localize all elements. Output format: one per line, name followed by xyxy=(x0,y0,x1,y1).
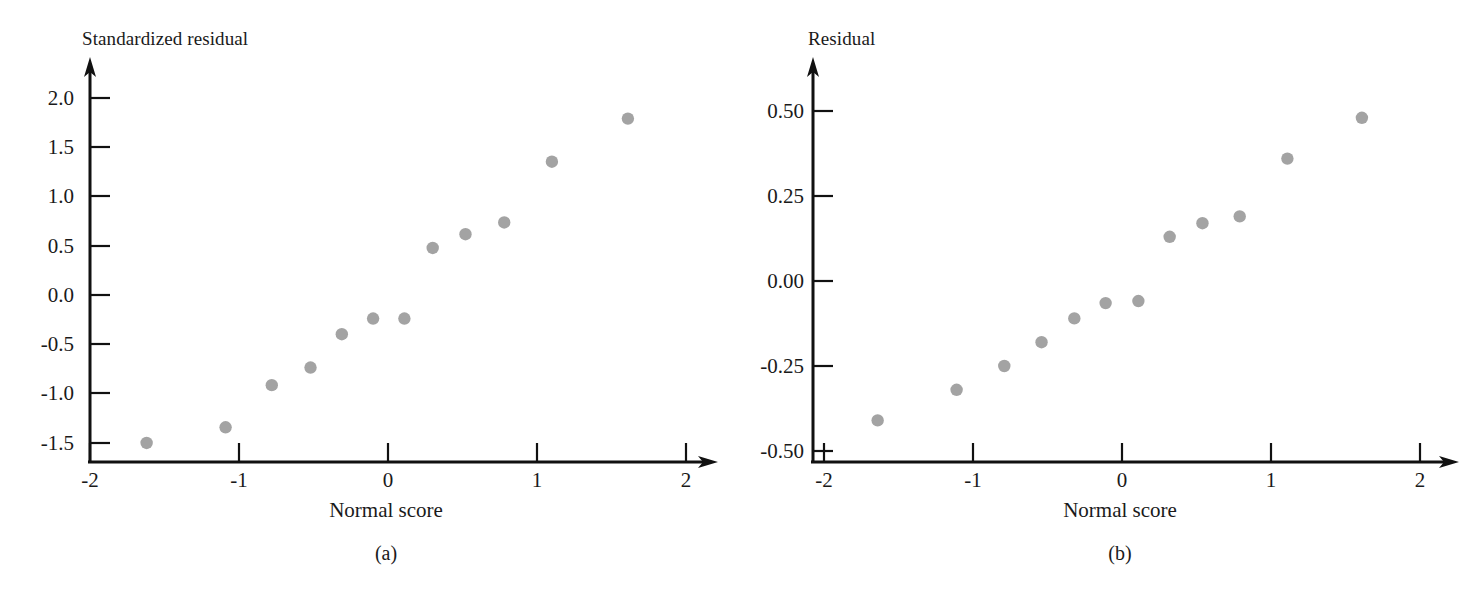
data-points-a xyxy=(140,112,634,449)
panel-caption-a: (a) xyxy=(336,542,436,565)
data-point xyxy=(140,437,152,449)
x-tick-label-a-4: 2 xyxy=(658,468,714,493)
data-point xyxy=(498,216,510,228)
data-point xyxy=(998,360,1010,372)
data-point xyxy=(1281,152,1293,164)
data-point xyxy=(219,421,231,433)
x-tick-label-a-1: -1 xyxy=(211,468,267,493)
data-point xyxy=(1099,297,1111,309)
x-tick-label-b-4: 2 xyxy=(1392,468,1448,493)
data-point xyxy=(1068,312,1080,324)
y-ticks-a xyxy=(90,98,110,443)
data-point xyxy=(622,112,634,124)
x-ticks-a xyxy=(90,443,686,462)
x-ticks-b xyxy=(824,443,1420,462)
figure-container: Standardized residual 2.0 1.5 1.0 0.5 0.… xyxy=(0,0,1481,589)
data-points-b xyxy=(871,112,1368,427)
y-tick-label-a-4: 0.0 xyxy=(10,283,74,308)
data-point xyxy=(950,384,962,396)
y-tick-label-b-1: 0.25 xyxy=(726,184,804,209)
x-tick-label-a-2: 0 xyxy=(360,468,416,493)
data-point xyxy=(459,228,471,240)
x-tick-label-a-0: -2 xyxy=(62,468,118,493)
data-point xyxy=(1356,112,1368,124)
y-tick-label-b-3: -0.25 xyxy=(726,354,804,379)
x-axis-title-b: Normal score xyxy=(970,498,1270,523)
data-point xyxy=(398,312,410,324)
y-tick-label-a-1: 1.5 xyxy=(10,135,74,160)
data-point xyxy=(1132,295,1144,307)
y-tick-label-a-5: -0.5 xyxy=(10,332,74,357)
panel-caption-b: (b) xyxy=(1070,542,1170,565)
data-point xyxy=(336,328,348,340)
x-axis-title-a: Normal score xyxy=(236,498,536,523)
data-point xyxy=(427,242,439,254)
x-tick-label-a-3: 1 xyxy=(509,468,565,493)
y-tick-label-a-0: 2.0 xyxy=(10,86,74,111)
y-tick-label-a-3: 0.5 xyxy=(10,234,74,259)
y-axis-title-b: Residual xyxy=(808,28,875,50)
panel-a: Standardized residual 2.0 1.5 1.0 0.5 0.… xyxy=(0,0,740,589)
data-point xyxy=(304,361,316,373)
x-tick-label-b-1: -1 xyxy=(945,468,1001,493)
x-tick-label-b-3: 1 xyxy=(1243,468,1299,493)
data-point xyxy=(546,156,558,168)
data-point xyxy=(1163,231,1175,243)
y-ticks-b xyxy=(813,111,833,451)
y-tick-label-b-4: -0.50 xyxy=(726,439,804,464)
y-tick-label-a-6: -1.0 xyxy=(10,381,74,406)
data-point xyxy=(1196,217,1208,229)
data-point xyxy=(367,312,379,324)
y-tick-label-a-7: -1.5 xyxy=(10,431,74,456)
data-point xyxy=(1035,336,1047,348)
x-tick-label-b-0: -2 xyxy=(796,468,852,493)
y-tick-label-b-2: 0.00 xyxy=(726,269,804,294)
x-tick-label-b-2: 0 xyxy=(1094,468,1150,493)
data-point xyxy=(1234,210,1246,222)
data-point xyxy=(871,414,883,426)
y-axis-title-a: Standardized residual xyxy=(82,28,248,50)
y-tick-label-a-2: 1.0 xyxy=(10,184,74,209)
y-tick-label-b-0: 0.50 xyxy=(726,99,804,124)
data-point xyxy=(266,379,278,391)
panel-b: Residual 0.50 0.25 0.00 -0.25 -0.50 -2 -… xyxy=(740,0,1481,589)
